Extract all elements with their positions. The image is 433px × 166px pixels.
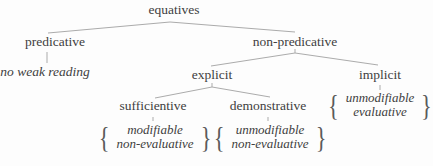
feature-evaluative: evaluative xyxy=(353,105,406,120)
feature-unmodifiable: unmodifiable xyxy=(346,91,415,106)
brace-close-icon: } xyxy=(315,122,326,152)
node-no-weak-reading: no weak reading xyxy=(0,65,89,79)
feature-non-evaluative: non-evaluative xyxy=(116,137,193,152)
node-sufficientive: sufficientive xyxy=(119,99,186,113)
feature-non-evaluative: non-evaluative xyxy=(231,137,308,152)
node-implicit: implicit xyxy=(359,68,401,82)
node-equatives: equatives xyxy=(149,3,200,17)
feature-group-demonstrative: { unmodifiable non-evaluative } xyxy=(212,122,328,152)
brace-open-icon: { xyxy=(328,90,339,120)
feature-group-sufficientive: { modifiable non-evaluative } xyxy=(97,122,213,152)
node-non-predicative: non-predicative xyxy=(253,35,338,49)
brace-open-icon: { xyxy=(99,122,110,152)
edge-explicit-sufficientive xyxy=(155,87,212,98)
node-demonstrative: demonstrative xyxy=(230,99,306,113)
feature-unmodifiable: unmodifiable xyxy=(236,123,305,138)
feature-group-implicit: { unmodifiable evaluative } xyxy=(326,90,433,120)
edge-equatives-nonpredicative xyxy=(170,22,295,32)
feature-modifiable: modifiable xyxy=(127,123,183,138)
feature-lines-implicit: unmodifiable evaluative xyxy=(346,91,415,120)
feature-lines-sufficientive: modifiable non-evaluative xyxy=(116,123,193,152)
edge-nonpredicative-implicit xyxy=(295,53,378,65)
feature-lines-demonstrative: unmodifiable non-evaluative xyxy=(231,123,308,152)
brace-open-icon: { xyxy=(214,122,225,152)
edge-nonpredicative-explicit xyxy=(211,53,295,66)
edge-explicit-demonstrative xyxy=(212,87,270,97)
brace-close-icon: } xyxy=(421,90,432,120)
node-predicative: predicative xyxy=(25,35,85,49)
tree-diagram: equatives predicative non-predicative no… xyxy=(0,0,433,166)
edge-equatives-predicative xyxy=(48,22,170,33)
brace-close-icon: } xyxy=(200,122,211,152)
node-explicit: explicit xyxy=(192,68,233,82)
